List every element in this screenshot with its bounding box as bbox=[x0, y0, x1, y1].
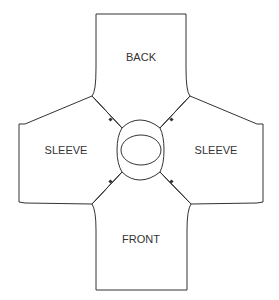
sleeve-left-label: SLEEVE bbox=[45, 144, 88, 156]
neck-opening bbox=[121, 135, 161, 165]
front-piece bbox=[92, 172, 191, 290]
pattern-diagram: BACK SLEEVE SLEEVE FRONT bbox=[0, 0, 279, 300]
front-label: FRONT bbox=[122, 233, 160, 245]
back-label: BACK bbox=[126, 51, 157, 63]
back-piece bbox=[92, 14, 190, 128]
sleeve-right-label: SLEEVE bbox=[195, 144, 238, 156]
